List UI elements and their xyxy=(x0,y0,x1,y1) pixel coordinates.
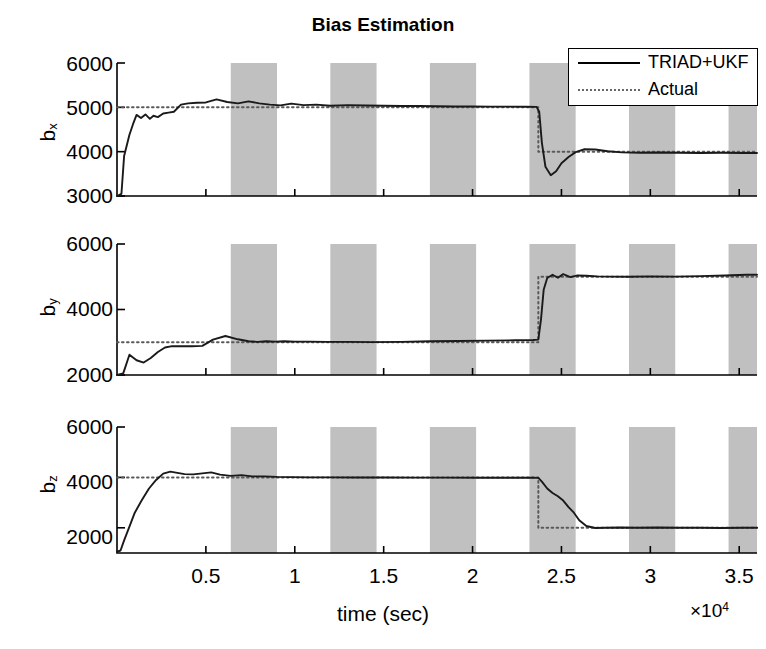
xaxis-label: time (sec) xyxy=(0,602,766,626)
shaded-band-1 xyxy=(231,244,277,375)
shaded-band-2 xyxy=(330,63,376,196)
xaxis-exponent-power: 4 xyxy=(722,600,729,614)
xtick-label-2.5: 2.5 xyxy=(521,564,601,588)
xtick-label-3: 3 xyxy=(610,564,690,588)
legend-line-solid-icon xyxy=(578,62,640,67)
shaded-band-5 xyxy=(629,244,675,375)
legend-label-actual: Actual xyxy=(648,79,698,100)
xtick-label-0.5: 0.5 xyxy=(166,564,246,588)
legend-label-triad-ukf: TRIAD+UKF xyxy=(648,52,749,73)
shaded-band-4 xyxy=(529,244,575,375)
subplot-by: by 6000 4000 2000 xyxy=(0,210,766,390)
shaded-band-6 xyxy=(729,244,757,375)
xtick-label-1: 1 xyxy=(255,564,335,588)
bias-estimation-figure: Bias Estimation bx 6000 5000 4000 3000 b… xyxy=(0,0,766,649)
shaded-band-3 xyxy=(430,427,476,553)
xaxis-exponent-prefix: ×10 xyxy=(690,600,722,621)
legend-row-actual: Actual xyxy=(569,76,759,105)
shaded-band-4 xyxy=(529,427,575,553)
legend-line-dotted-icon xyxy=(578,89,640,94)
plot-canvas-by xyxy=(0,210,766,390)
xaxis-exponent: ×104 xyxy=(690,600,729,622)
legend-row-triad-ukf: TRIAD+UKF xyxy=(569,49,759,78)
shaded-band-3 xyxy=(430,244,476,375)
xtick-label-2: 2 xyxy=(433,564,513,588)
shaded-band-2 xyxy=(330,427,376,553)
shaded-band-3 xyxy=(430,63,476,196)
shaded-band-5 xyxy=(629,427,675,553)
shaded-band-6 xyxy=(729,427,757,553)
xtick-label-3.5: 3.5 xyxy=(699,564,766,588)
shaded-band-1 xyxy=(231,427,277,553)
plot-canvas-bz xyxy=(0,390,766,570)
shaded-band-1 xyxy=(231,63,277,196)
subplot-bz: bz 6000 4000 2000 xyxy=(0,390,766,570)
shaded-band-2 xyxy=(330,244,376,375)
legend: TRIAD+UKF Actual xyxy=(568,48,758,106)
xtick-label-1.5: 1.5 xyxy=(344,564,424,588)
